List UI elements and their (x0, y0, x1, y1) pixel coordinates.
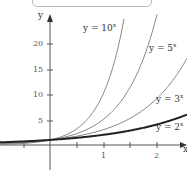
x-tick-2: 2 (154, 151, 159, 160)
y-axis-arrow-icon (47, 14, 53, 22)
y-tick-15: 15 (33, 65, 43, 74)
x-axis-label: x (183, 144, 187, 154)
curve-5x (0, 14, 157, 144)
label-5x: y = 5x (149, 41, 176, 53)
y-tick-20: 20 (33, 39, 43, 48)
label-2x: y = 2x (156, 120, 183, 132)
label-3x: y = 3x (156, 92, 183, 104)
y-tick-5: 5 (38, 116, 43, 125)
y-tick-10: 10 (33, 90, 43, 99)
x-tick-1: 1 (101, 151, 106, 160)
label-10x: y = 10x (83, 21, 116, 33)
y-axis-label: y (38, 10, 43, 20)
curve-10x (0, 19, 124, 145)
